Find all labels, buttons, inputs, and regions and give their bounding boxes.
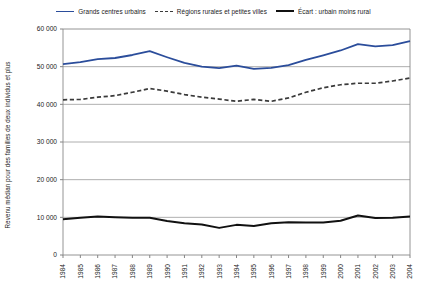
x-axis-tick-label: 1984 — [59, 264, 66, 279]
y-axis-tick-label: 20 000 — [37, 176, 58, 183]
chart-svg: 1984198519861987198819891990199119921993… — [0, 0, 427, 290]
x-axis-tick-label: 1995 — [250, 264, 257, 279]
series-line-r-gions-rurales-et-petites-villes — [63, 78, 410, 101]
y-axis-tick-label: 40 000 — [37, 101, 58, 108]
y-axis-tick-label: 50 000 — [37, 63, 58, 70]
x-axis-tick-label: 1990 — [164, 264, 171, 279]
x-axis-labels: 1984198519861987198819891990199119921993… — [59, 264, 413, 279]
x-axis-tick-label: 2000 — [337, 264, 344, 279]
x-axis-tick-label: 1985 — [77, 264, 84, 279]
x-axis-tick-label: 1989 — [146, 264, 153, 279]
x-axis-tick-label: 1987 — [111, 264, 118, 279]
x-axis-tick-label: 1991 — [181, 264, 188, 279]
x-axis-tick-label: 1986 — [94, 264, 101, 279]
gridlines — [63, 67, 410, 218]
x-axis-tick-label: 1998 — [302, 264, 309, 279]
x-axis-tick-label: 2002 — [372, 264, 379, 279]
x-axis-tick-label: 1999 — [320, 264, 327, 279]
series-line-grands-centres-urbains — [63, 41, 410, 69]
chart-figure: Grands centres urbains Régions rurales e… — [0, 0, 427, 290]
x-axis-tick-label: 1996 — [268, 264, 275, 279]
x-axis-tick-label: 1994 — [233, 264, 240, 279]
x-axis-tick-label: 2003 — [389, 264, 396, 279]
plot-area: 1984198519861987198819891990199119921993… — [0, 0, 427, 290]
y-axis-tick-label: 60 000 — [37, 25, 58, 32]
y-axis-labels: 60 00050 00040 00030 00020 00010 0000 — [37, 25, 58, 258]
x-axis-tick-label: 1997 — [285, 264, 292, 279]
y-axis-tick-label: 10 000 — [37, 214, 58, 221]
data-series — [63, 41, 410, 228]
y-axis-tick-label: 0 — [53, 251, 57, 258]
y-axis-tick-label: 30 000 — [37, 138, 58, 145]
x-axis-tick-label: 2001 — [354, 264, 361, 279]
x-axis-tick-label: 2004 — [406, 264, 413, 279]
x-axis-tick-label: 1988 — [129, 264, 136, 279]
x-axis-tick-label: 1993 — [216, 264, 223, 279]
x-axis-tick-label: 1992 — [198, 264, 205, 279]
